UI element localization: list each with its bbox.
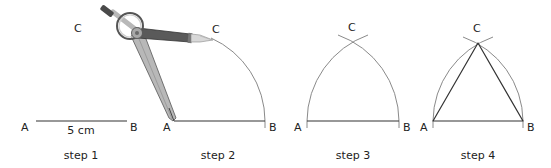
step-3: A B C step 3 xyxy=(294,21,411,162)
arc-from-a xyxy=(211,38,265,128)
step-caption: step 3 xyxy=(336,149,370,162)
label-a: A xyxy=(163,121,171,134)
compass-icon xyxy=(100,4,213,121)
length-label: 5 cm xyxy=(67,124,94,137)
label-a: A xyxy=(21,121,29,134)
label-b: B xyxy=(269,121,277,134)
step-caption: step 4 xyxy=(461,149,495,162)
label-c: C xyxy=(74,22,82,35)
label-b: B xyxy=(130,121,138,134)
arc-from-a xyxy=(338,35,399,128)
arc-from-a xyxy=(463,37,523,128)
label-b: B xyxy=(403,121,411,134)
arc-from-b xyxy=(307,35,368,128)
label-c: C xyxy=(348,21,356,34)
step-caption: step 1 xyxy=(64,149,98,162)
label-c: C xyxy=(212,23,220,36)
label-a: A xyxy=(294,121,302,134)
label-a: A xyxy=(420,121,428,134)
step-caption: step 2 xyxy=(201,149,235,162)
arc-from-b xyxy=(433,37,493,128)
step-1: A B C 5 cm step 1 xyxy=(21,22,138,162)
construction-diagram: A B C 5 cm step 1 A B C step 2 xyxy=(0,0,551,168)
step-4: A B C step 4 xyxy=(420,22,535,162)
label-b: B xyxy=(527,121,535,134)
equilateral-triangle xyxy=(433,43,523,121)
step-2: A B C step 2 xyxy=(100,4,277,162)
label-c: C xyxy=(473,22,481,35)
